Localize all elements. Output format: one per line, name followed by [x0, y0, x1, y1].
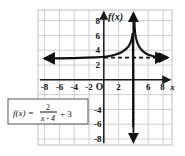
- y-axis-label: f(x): [108, 11, 123, 23]
- rational-function-figure: -8 -6 -4 -2 2 6 8 x O 8 6 4 2 -4 -6 -8 f…: [0, 0, 185, 156]
- equation-box: f(x) = 2 x - 4 + 3: [8, 99, 88, 124]
- y-tick-2: 2: [96, 60, 101, 70]
- x-tick--8: -8: [41, 82, 49, 92]
- x-axis-label: x: [169, 82, 175, 92]
- x-tick--4: -4: [70, 82, 78, 92]
- y-tick-8: 8: [96, 16, 101, 26]
- equation-numerator: 2: [46, 103, 50, 112]
- x-tick-8: 8: [160, 82, 165, 92]
- x-tick--2: -2: [85, 82, 93, 92]
- y-tick--4: -4: [94, 105, 102, 115]
- equation-addend: + 3: [60, 109, 72, 119]
- plot-background: [38, 10, 172, 145]
- equation-denominator: x - 4: [40, 114, 55, 123]
- equation-lhs: f(x) =: [13, 108, 34, 118]
- x-tick--6: -6: [56, 82, 64, 92]
- graph-canvas: -8 -6 -4 -2 2 6 8 x O 8 6 4 2 -4 -6 -8 f…: [0, 0, 185, 156]
- y-tick-4: 4: [96, 45, 101, 55]
- y-tick--8: -8: [94, 134, 102, 144]
- y-tick-6: 6: [96, 31, 101, 41]
- y-tick--6: -6: [94, 119, 102, 129]
- x-tick-2: 2: [116, 82, 121, 92]
- curve-left-drop: [133, 34, 134, 126]
- origin-label: O: [96, 82, 103, 92]
- x-tick-6: 6: [146, 82, 151, 92]
